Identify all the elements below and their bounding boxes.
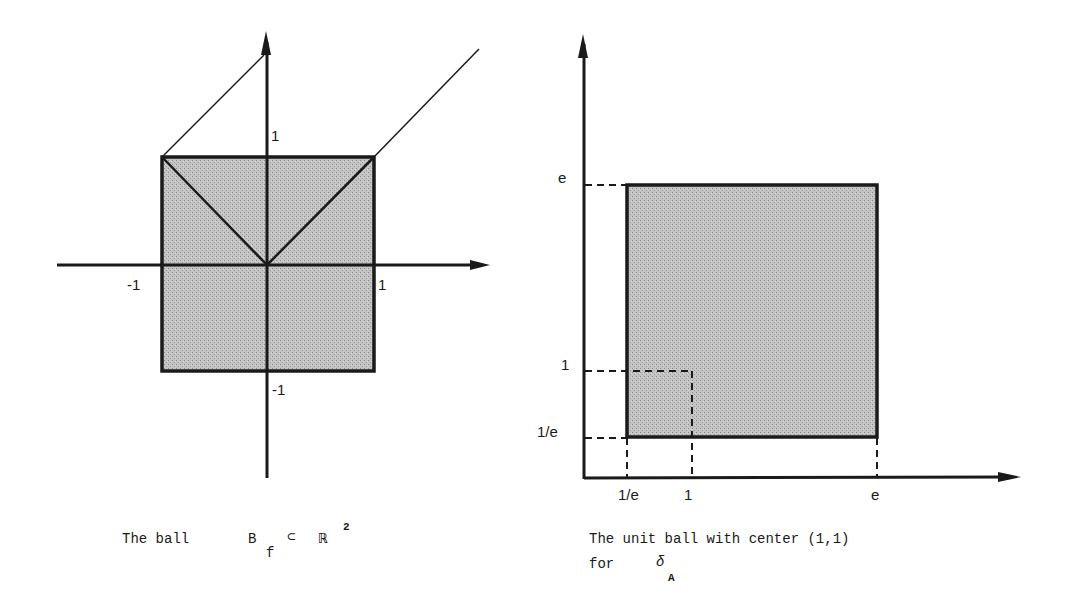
tick-x-inv-e: 1/e: [618, 486, 639, 503]
diagonal-left: [162, 55, 264, 157]
tick-y-inv-e: 1/e: [537, 423, 558, 440]
right-caption: The unit ball with center (1,1) for δ A: [589, 531, 849, 584]
tick-x-1: 1: [684, 486, 692, 503]
caption-delta-symbol: δ: [656, 554, 665, 570]
caption-superscript-2: 2: [343, 521, 350, 533]
x-axis-arrow-icon: [470, 260, 490, 270]
caption-real-space: ℝ: [319, 531, 328, 547]
label-y-pos-1: 1: [271, 127, 279, 144]
caption-subscript-a: A: [668, 572, 675, 584]
caption-subscript-f: f: [266, 545, 274, 561]
caption-prefix: The ball: [122, 531, 189, 547]
caption-for: for: [589, 556, 614, 572]
tick-y-e: e: [558, 169, 566, 186]
label-x-pos-1: 1: [378, 276, 386, 293]
unit-ball-rect: [627, 185, 877, 437]
figure-canvas: 1 -1 1 -1 The ball B f ⊂ ℝ 2: [0, 0, 1072, 608]
left-caption: The ball B f ⊂ ℝ 2: [122, 521, 350, 561]
diagonal-right: [374, 49, 479, 157]
left-figure: 1 -1 1 -1 The ball B f ⊂ ℝ 2: [57, 31, 490, 561]
caption-line1: The unit ball with center (1,1): [589, 531, 849, 547]
right-y-axis-arrow-icon: [578, 34, 588, 58]
right-figure: e 1 1/e 1/e 1 e The unit ball with cente…: [537, 34, 1021, 584]
caption-subset-symbol: ⊂: [287, 529, 295, 545]
label-x-neg-1: -1: [127, 276, 140, 293]
y-axis-arrow-icon: [261, 31, 271, 55]
tick-x-e: e: [871, 486, 879, 503]
label-y-neg-1: -1: [272, 381, 285, 398]
caption-symbol-b: B: [248, 531, 256, 547]
right-x-axis: [584, 477, 1010, 478]
right-x-axis-arrow-icon: [998, 472, 1021, 482]
tick-y-1: 1: [561, 356, 569, 373]
